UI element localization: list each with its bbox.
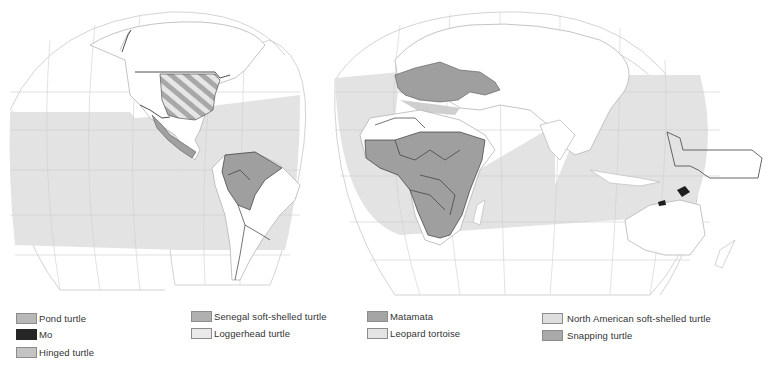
matamata-swatch [367,311,388,322]
legend-label: Senegal soft-shelled turtle [214,311,327,322]
pond-turtle-swatch [16,313,37,324]
north-american-soft-shelled-turtle-swatch [542,313,563,324]
legend-label: North American soft-shelled turtle [567,313,711,324]
snapping-turtle-swatch [542,330,563,341]
legend-label: Leopard tortoise [390,328,460,339]
legend-label: Hinged turtle [39,347,94,358]
world-map [0,0,779,300]
legend-item-matamata: Matamata [367,309,433,323]
legend-item-north-american-soft-shelled-turtle: North American soft-shelled turtle [542,311,711,325]
leopard-tortoise-swatch [367,328,388,339]
legend: Pond turtle Mo Hinged turtle Senegal sof… [0,300,779,379]
legend-label: Mo [39,329,52,340]
legend-item-leopard-tortoise: Leopard tortoise [367,326,460,340]
legend-label: Matamata [390,311,433,322]
new-zealand [715,240,735,268]
mo-swatch [16,329,37,340]
legend-label: Pond turtle [39,313,86,324]
legend-label: Loggerhead turtle [214,328,290,339]
legend-item-senegal-soft-shelled-turtle: Senegal soft-shelled turtle [191,309,327,323]
legend-label: Snapping turtle [567,330,632,341]
senegal-soft-shelled-turtle-swatch [191,311,212,322]
legend-item-mo: Mo [16,327,52,341]
loggerhead-turtle-swatch [191,328,212,339]
legend-item-hinged-turtle: Hinged turtle [16,345,94,359]
legend-item-snapping-turtle: Snapping turtle [542,328,632,342]
legend-item-pond-turtle: Pond turtle [16,311,86,325]
hinged-turtle-swatch [16,347,37,358]
legend-item-loggerhead-turtle: Loggerhead turtle [191,326,290,340]
